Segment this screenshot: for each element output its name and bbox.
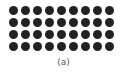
- dot: [81, 30, 90, 39]
- dot: [69, 30, 78, 39]
- dot: [9, 42, 18, 51]
- dot: [21, 18, 30, 27]
- figure-caption: (a): [0, 57, 127, 67]
- dot: [105, 18, 114, 27]
- dot: [9, 30, 18, 39]
- dot: [57, 18, 66, 27]
- dot: [45, 6, 54, 15]
- dot: [21, 6, 30, 15]
- dot: [69, 18, 78, 27]
- dot: [105, 42, 114, 51]
- dot: [33, 30, 42, 39]
- dot: [45, 42, 54, 51]
- dot: [9, 18, 18, 27]
- dot: [33, 18, 42, 27]
- dot: [57, 30, 66, 39]
- dot: [33, 42, 42, 51]
- dot: [57, 42, 66, 51]
- dot-grid: [0, 0, 127, 60]
- dot: [93, 42, 102, 51]
- dot: [93, 6, 102, 15]
- dot: [81, 18, 90, 27]
- dot: [93, 18, 102, 27]
- dot: [33, 6, 42, 15]
- dot: [81, 42, 90, 51]
- dot: [69, 42, 78, 51]
- dot: [93, 30, 102, 39]
- dot: [9, 6, 18, 15]
- dot: [21, 42, 30, 51]
- dot: [45, 30, 54, 39]
- dot: [21, 30, 30, 39]
- dot: [57, 6, 66, 15]
- dot: [45, 18, 54, 27]
- dot: [105, 6, 114, 15]
- dot: [105, 30, 114, 39]
- dot: [81, 6, 90, 15]
- dot: [69, 6, 78, 15]
